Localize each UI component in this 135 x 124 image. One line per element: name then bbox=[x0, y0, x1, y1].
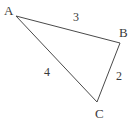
vertex-label-b: B bbox=[119, 26, 128, 39]
vertex-label-c: C bbox=[95, 107, 104, 120]
side-label-ac: 4 bbox=[44, 66, 50, 78]
triangle-shape bbox=[0, 0, 135, 124]
triangle-figure: A B C 3 4 2 bbox=[0, 0, 135, 124]
side-label-bc: 2 bbox=[116, 70, 122, 82]
side-label-ab: 3 bbox=[73, 11, 79, 23]
vertex-label-a: A bbox=[4, 4, 13, 17]
triangle-outline bbox=[16, 16, 120, 102]
